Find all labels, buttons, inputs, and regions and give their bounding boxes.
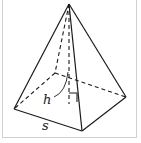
side-label: s xyxy=(42,118,49,133)
figure-frame: h s xyxy=(0,0,141,143)
height-label-leader xyxy=(54,72,68,97)
height-label: h xyxy=(43,92,51,107)
back-right-base-edge xyxy=(55,73,126,97)
back-lateral-edge xyxy=(55,4,69,73)
front-right-base-edge xyxy=(82,97,126,131)
pyramid-diagram: h s xyxy=(0,0,141,143)
right-angle-marker xyxy=(69,93,77,102)
visible-edges xyxy=(14,4,126,131)
left-lateral-edge xyxy=(14,4,69,109)
